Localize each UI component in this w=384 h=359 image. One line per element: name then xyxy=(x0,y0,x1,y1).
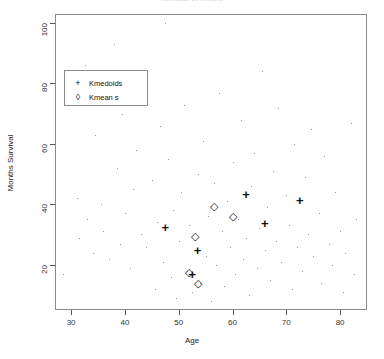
kmeans-center-marker: ◇ xyxy=(194,277,202,288)
kmedoids-center-marker: + xyxy=(161,222,169,235)
kmeans-center-marker: ◇ xyxy=(185,267,193,278)
data-point xyxy=(171,277,172,278)
data-point xyxy=(117,168,118,169)
legend-item-kmeans: ◊ Kmean s xyxy=(65,90,147,104)
data-point xyxy=(243,259,244,260)
data-point xyxy=(262,71,263,72)
y-axis-tick-label: 60 xyxy=(40,144,49,153)
legend-label: Kmedoids xyxy=(89,79,122,88)
data-point xyxy=(324,156,325,157)
data-point xyxy=(176,298,177,299)
data-point xyxy=(345,253,346,254)
y-axis-tick-label: 100 xyxy=(40,23,49,36)
kmedoids-center-marker: + xyxy=(296,194,304,207)
data-point xyxy=(230,247,231,248)
data-point xyxy=(79,238,80,239)
data-point xyxy=(329,244,330,245)
data-point xyxy=(189,225,190,226)
data-point xyxy=(173,210,174,211)
data-point xyxy=(109,259,110,260)
data-point xyxy=(141,234,142,235)
x-axis-tick-label: 30 xyxy=(67,318,76,327)
data-point xyxy=(216,265,217,266)
data-point xyxy=(305,177,306,178)
legend: + Kmedoids ◊ Kmean s xyxy=(64,70,148,106)
data-point xyxy=(335,192,336,193)
data-point xyxy=(85,65,86,66)
y-axis-tick-label: 40 xyxy=(40,204,49,213)
data-point xyxy=(181,192,182,193)
data-point xyxy=(238,219,239,220)
x-axis-tick xyxy=(233,310,234,315)
data-point xyxy=(155,289,156,290)
data-point xyxy=(254,153,255,154)
data-point xyxy=(251,186,252,187)
data-point xyxy=(103,231,104,232)
data-point xyxy=(351,123,352,124)
data-point xyxy=(302,271,303,272)
data-point xyxy=(281,262,282,263)
chart-title: Kmedoids vs Kmeans xyxy=(0,0,384,4)
data-point xyxy=(101,204,102,205)
data-point xyxy=(321,283,322,284)
y-axis-tick xyxy=(50,23,55,24)
chart-root: Kmedoids vs Kmeans 304050607080204060801… xyxy=(0,0,384,359)
data-point xyxy=(168,159,169,160)
data-point xyxy=(292,289,293,290)
x-axis-tick-label: 50 xyxy=(174,318,183,327)
data-point xyxy=(63,274,64,275)
x-axis-tick xyxy=(125,310,126,315)
data-point xyxy=(294,144,295,145)
y-axis-tick xyxy=(50,144,55,145)
data-point xyxy=(165,23,166,24)
data-point xyxy=(311,129,312,130)
data-point xyxy=(133,189,134,190)
data-point xyxy=(354,274,355,275)
data-point xyxy=(146,247,147,248)
data-point xyxy=(267,207,268,208)
data-point xyxy=(278,108,279,109)
y-axis-tick xyxy=(50,83,55,84)
kmedoids-center-marker: + xyxy=(242,188,250,201)
data-point xyxy=(343,292,344,293)
data-point xyxy=(93,253,94,254)
data-point xyxy=(356,219,357,220)
y-axis-tick-label: 80 xyxy=(40,83,49,92)
data-point xyxy=(265,250,266,251)
data-point xyxy=(198,174,199,175)
data-point xyxy=(114,44,115,45)
x-axis-tick xyxy=(340,310,341,315)
data-point xyxy=(286,195,287,196)
data-point xyxy=(203,141,204,142)
diamond-marker-icon: ◊ xyxy=(73,92,83,102)
data-point xyxy=(332,265,333,266)
data-point xyxy=(222,231,223,232)
x-axis-tick-label: 70 xyxy=(282,318,291,327)
data-point xyxy=(136,150,137,151)
data-point xyxy=(160,126,161,127)
x-axis-tick-label: 60 xyxy=(228,318,237,327)
data-point xyxy=(214,183,215,184)
data-point xyxy=(249,295,250,296)
data-point xyxy=(157,222,158,223)
y-axis-tick-label: 20 xyxy=(40,265,49,274)
data-point xyxy=(77,198,78,199)
data-point xyxy=(152,180,153,181)
data-point xyxy=(224,286,225,287)
data-point xyxy=(211,301,212,302)
data-point xyxy=(308,234,309,235)
data-point xyxy=(289,225,290,226)
data-point xyxy=(208,216,209,217)
x-axis-tick xyxy=(286,310,287,315)
data-point xyxy=(120,244,121,245)
data-point xyxy=(125,213,126,214)
kmedoids-center-marker: + xyxy=(261,217,269,230)
kmeans-center-marker: ◇ xyxy=(210,200,218,211)
data-point xyxy=(319,213,320,214)
data-point xyxy=(87,219,88,220)
data-point xyxy=(241,120,242,121)
x-axis-tick-label: 40 xyxy=(120,318,129,327)
x-axis-tick xyxy=(71,310,72,315)
data-point xyxy=(297,247,298,248)
data-point xyxy=(192,292,193,293)
